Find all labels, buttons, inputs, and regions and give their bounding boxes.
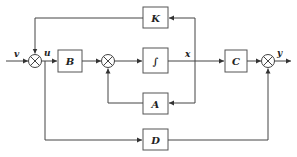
signal-x-label: x [184, 49, 191, 59]
block-D-label: D [150, 135, 160, 146]
block-B-label: B [65, 56, 74, 67]
k-feedback-line [35, 18, 143, 54]
block-K-label: K [150, 13, 161, 24]
a-feedback-line [108, 69, 143, 104]
block-C-label: C [232, 56, 240, 67]
integrator-symbol: ∫ [153, 56, 159, 67]
u-to-d-line [45, 61, 142, 140]
sum-input-junction [29, 55, 42, 68]
block-diagram: v u B ∫ x K A C [0, 0, 297, 157]
block-A-label: A [151, 99, 160, 110]
signal-y-label: y [276, 48, 283, 58]
signal-v-label: v [14, 49, 20, 59]
d-feedforward-line [168, 69, 268, 141]
signal-u-label: u [44, 48, 51, 58]
sum-state-junction [102, 55, 115, 68]
sum-output-junction [262, 55, 275, 68]
